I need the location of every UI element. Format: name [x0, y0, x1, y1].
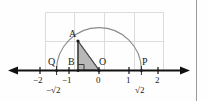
tick-label-neg1: −1 — [62, 76, 72, 85]
point-label-O: O — [99, 57, 106, 67]
axis-arrow-right — [180, 67, 190, 75]
point-label-Q: Q — [48, 57, 55, 67]
point-label-B: B — [68, 57, 75, 67]
figure-canvas — [0, 0, 207, 101]
tick-label-sqrt2: √2 — [135, 86, 144, 95]
tick-label-two: 2 — [155, 76, 160, 85]
tick-label-zero: 0 — [96, 76, 101, 85]
point-label-P: P — [142, 57, 148, 67]
axis-arrow-left — [8, 67, 18, 75]
tick-label-neg2: −2 — [33, 76, 43, 85]
tick-label-neg-sqrt2: −√2 — [46, 86, 61, 95]
tick-label-one: 1 — [126, 76, 131, 85]
point-label-A: A — [69, 29, 76, 39]
geometry-figure: A B O Q P −2 −1 0 1 2 −√2 √2 — [0, 0, 207, 101]
